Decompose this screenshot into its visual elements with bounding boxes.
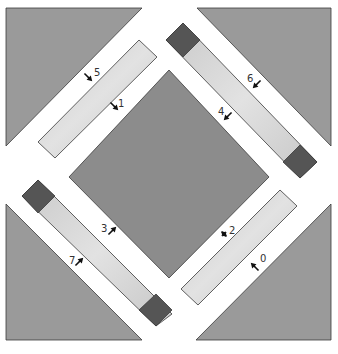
marker-6: 6: [247, 73, 263, 90]
marker-label: 6: [247, 73, 253, 84]
quilt-diagram: 51643720: [0, 0, 338, 354]
marker-label: 2: [229, 225, 235, 236]
marker-3: 3: [101, 223, 118, 237]
marker-4: 4: [218, 106, 234, 122]
marker-5: 5: [82, 67, 100, 83]
arrow-icon: [106, 225, 118, 237]
marker-7: 7: [69, 255, 85, 268]
marker-0: 0: [249, 253, 267, 273]
arrow-icon: [249, 261, 261, 273]
arrow-icon: [220, 230, 229, 239]
marker-label: 5: [94, 67, 100, 78]
marker-label: 4: [218, 106, 224, 117]
arrow-icon: [82, 71, 94, 83]
marker-label: 1: [118, 98, 124, 109]
marker-label: 7: [69, 255, 75, 266]
marker-label: 3: [101, 223, 107, 234]
marker-label: 0: [260, 253, 266, 264]
